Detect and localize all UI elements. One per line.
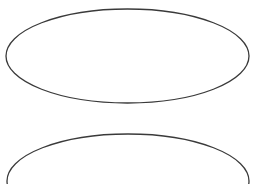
ellipse-bottom bbox=[7, 134, 249, 184]
ellipse-top bbox=[6, 9, 249, 103]
diagram-canvas bbox=[0, 0, 259, 184]
